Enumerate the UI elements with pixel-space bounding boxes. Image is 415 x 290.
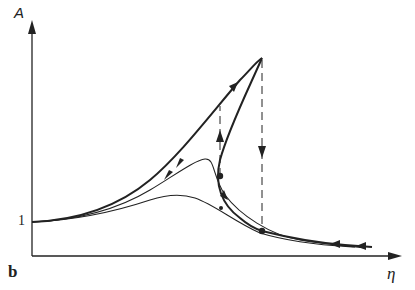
curve-nonlinear-lower	[262, 231, 372, 247]
jump-up-arrow-icon	[216, 130, 224, 142]
turning-point-dot	[217, 173, 223, 179]
arrow-down-branch-icon-2	[176, 158, 184, 168]
y-axis-label: A	[14, 4, 24, 21]
axes	[28, 20, 402, 260]
y-tick-1: 1	[18, 213, 25, 229]
direction-arrows	[164, 82, 366, 250]
arrow-lower-icon-1	[330, 240, 340, 248]
arrow-lower-icon-2	[356, 242, 366, 250]
resonance-diagram: A 1 b η	[0, 0, 415, 290]
curve-medium	[32, 159, 365, 248]
curve-nonlinear-middle	[218, 58, 262, 231]
curve-low	[32, 195, 355, 247]
x-axis-arrow-icon	[388, 252, 402, 260]
jump-down-arrow-icon	[258, 146, 266, 158]
middle-branch-dot	[219, 206, 223, 210]
x-axis-label: η	[387, 264, 395, 284]
y-axis-arrow-icon	[28, 20, 36, 34]
panel-label: b	[8, 262, 17, 282]
jump-landing-dot	[259, 228, 265, 234]
